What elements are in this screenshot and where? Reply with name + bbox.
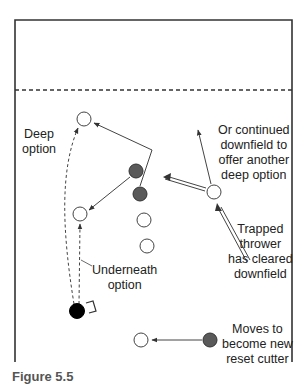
clear-downfield-path <box>163 173 206 191</box>
underneath-throw-path <box>79 224 80 304</box>
dark-cutter-2 <box>133 187 147 201</box>
figure-caption: Figure 5.5 <box>12 369 73 384</box>
trapped-thrower-cleared <box>207 185 221 199</box>
underneath-option-label: Underneath option <box>92 263 157 293</box>
stack-player-2 <box>140 239 154 253</box>
continued-downfield-path <box>198 130 211 184</box>
deep-option-receiver <box>77 112 91 126</box>
new-reset-target <box>134 333 148 347</box>
continued-downfield-label: Or continued downfield to offer another … <box>218 123 290 183</box>
trapped-thrower-label: Trapped thrower has cleared downfield <box>228 222 293 282</box>
mark-bracket <box>86 301 96 313</box>
dark-cutter-1 <box>129 164 143 178</box>
underneath-leader-line <box>81 260 92 266</box>
deep-option-label: Deep option <box>22 127 56 157</box>
disc-holder <box>70 304 85 319</box>
deep-cut-path <box>94 123 152 186</box>
underneath-cut-path <box>89 177 130 210</box>
field-border <box>15 20 292 362</box>
stack-player-1 <box>137 213 151 227</box>
reset-cutter <box>203 333 217 347</box>
new-reset-label: Moves to become new reset cutter <box>222 322 293 367</box>
underneath-receiver <box>73 207 87 221</box>
